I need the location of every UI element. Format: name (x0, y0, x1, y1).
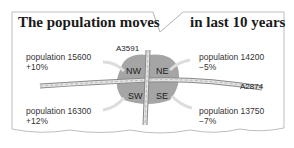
title-right: in last 10 years (190, 14, 285, 31)
population: population 13750 (199, 106, 264, 116)
quadrant-ne: NE (156, 66, 169, 76)
quadrant-nw: NW (126, 66, 141, 76)
road-label-ns: A3591 (116, 44, 139, 53)
quadrant-sw: SW (128, 91, 143, 101)
change: +12% (26, 116, 91, 126)
title-left: The population moves (18, 14, 160, 31)
population: population 15600 (26, 52, 91, 62)
quadrant-se: SE (156, 91, 168, 101)
change: −7% (199, 116, 264, 126)
area-ne-label: population 14200 −5% (199, 52, 264, 72)
road-label-ew: A2874 (240, 82, 263, 91)
population: population 16300 (26, 106, 91, 116)
change: −5% (199, 62, 264, 72)
area-sw-label: population 16300 +12% (26, 106, 91, 126)
area-nw-label: population 15600 +10% (26, 52, 91, 72)
change: +10% (26, 62, 91, 72)
population: population 14200 (199, 52, 264, 62)
area-se-label: population 13750 −7% (199, 106, 264, 126)
